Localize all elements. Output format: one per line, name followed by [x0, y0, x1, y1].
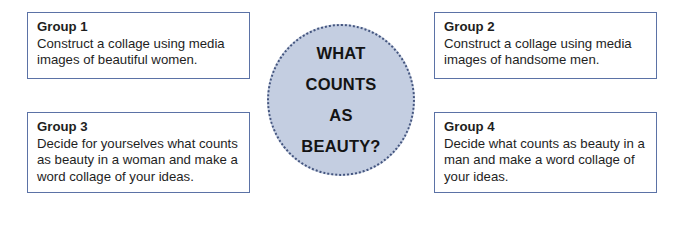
group-3-box: Group 3 Decide for yourselves what count…: [27, 112, 250, 193]
group-2-box: Group 2 Construct a collage using media …: [434, 12, 657, 79]
group-4-box: Group 4 Decide what counts as beauty in …: [434, 112, 657, 193]
center-line-3: AS: [329, 100, 352, 131]
group-4-text: Decide what counts as beauty in a man an…: [444, 136, 647, 186]
center-question-circle: WHAT COUNTS AS BEAUTY?: [267, 24, 415, 176]
group-2-title: Group 2: [444, 19, 647, 36]
center-line-1: WHAT: [316, 38, 365, 69]
group-1-text: Construct a collage using media images o…: [37, 36, 240, 69]
center-line-2: COUNTS: [306, 69, 377, 100]
group-2-text: Construct a collage using media images o…: [444, 36, 647, 69]
group-3-title: Group 3: [37, 119, 240, 136]
group-1-title: Group 1: [37, 19, 240, 36]
group-3-text: Decide for yourselves what counts as bea…: [37, 136, 240, 186]
center-line-4: BEAUTY?: [301, 131, 380, 162]
group-4-title: Group 4: [444, 119, 647, 136]
group-1-box: Group 1 Construct a collage using media …: [27, 12, 250, 79]
